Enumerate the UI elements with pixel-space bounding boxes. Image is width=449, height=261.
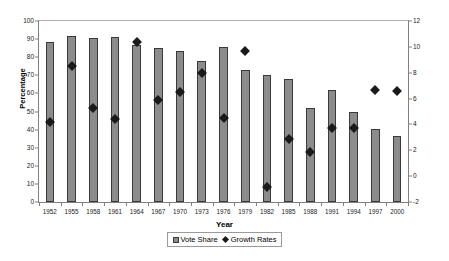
marker-1994 [349, 123, 359, 133]
marker-1964 [132, 37, 142, 47]
legend-label-growth-rates: Growth Rates [231, 235, 277, 244]
x-tickmark-end [408, 203, 409, 206]
x-tick-label-1982: 1982 [260, 208, 274, 215]
x-tickmark-12 [299, 203, 300, 206]
marker-1970 [175, 87, 185, 97]
marker-1973 [197, 68, 207, 78]
y-tickmark-right-2 [409, 150, 412, 151]
y-tick-left-80: 80 [27, 54, 34, 61]
x-tick-label-1973: 1973 [195, 208, 209, 215]
plot-area [38, 20, 409, 203]
x-tick-label-1964: 1964 [130, 208, 144, 215]
x-tickmark-8 [213, 203, 214, 206]
y-tick-left-100: 100 [23, 18, 34, 25]
x-tick-label-1994: 1994 [347, 208, 361, 215]
marker-1955 [67, 61, 77, 71]
x-axis-title: Year [0, 220, 449, 229]
marker-1961 [110, 114, 120, 124]
y-axis-left-title: Percentage [18, 49, 27, 129]
chart-figure: 0102030405060708090100 Percentage -20246… [0, 0, 449, 261]
marker-1967 [153, 95, 163, 105]
y-axis-right: -2024681012 [413, 20, 437, 203]
y-tick-right-8: 8 [413, 69, 417, 76]
bar-swatch-icon [173, 237, 179, 243]
y-tick-left-30: 30 [27, 144, 34, 151]
marker-1976 [219, 113, 229, 123]
x-tick-label-1991: 1991 [325, 208, 339, 215]
y-tickmark-right-6 [409, 98, 412, 99]
legend-item-vote-share: Vote Share [173, 235, 218, 244]
y-tick-left-10: 10 [27, 181, 34, 188]
marker-1982 [262, 182, 272, 192]
y-tick-left-60: 60 [27, 90, 34, 97]
chart-legend: Vote Share Growth Rates [167, 232, 283, 247]
y-tick-left-70: 70 [27, 72, 34, 79]
marker-1952 [45, 117, 55, 127]
y-tick-right--2: -2 [413, 199, 419, 206]
x-axis: 1952195519581961196419671970197319761979… [38, 203, 409, 219]
x-tickmark-3 [104, 203, 105, 206]
y-tick-right-0: 0 [413, 173, 417, 180]
y-tickmark-right--2 [409, 202, 412, 203]
y-tick-right-2: 2 [413, 147, 417, 154]
x-tickmark-11 [278, 203, 279, 206]
x-tick-label-1958: 1958 [86, 208, 100, 215]
marker-1979 [240, 46, 250, 56]
x-tick-label-1976: 1976 [216, 208, 230, 215]
x-tick-label-1988: 1988 [303, 208, 317, 215]
x-tickmark-16 [386, 203, 387, 206]
points-layer [39, 21, 408, 202]
y-tick-right-6: 6 [413, 95, 417, 102]
y-tick-left-50: 50 [27, 108, 34, 115]
x-tick-label-1952: 1952 [43, 208, 57, 215]
x-tick-label-2000: 2000 [390, 208, 404, 215]
marker-1985 [284, 134, 294, 144]
x-tick-label-1961: 1961 [108, 208, 122, 215]
legend-label-vote-share: Vote Share [181, 235, 218, 244]
x-tick-label-1970: 1970 [173, 208, 187, 215]
y-tick-left-90: 90 [27, 36, 34, 43]
x-tick-label-1985: 1985 [282, 208, 296, 215]
x-tickmark-2 [82, 203, 83, 206]
x-tickmark-7 [191, 203, 192, 206]
x-tickmark-15 [365, 203, 366, 206]
x-tickmark-4 [126, 203, 127, 206]
marker-2000 [392, 86, 402, 96]
x-tickmark-5 [148, 203, 149, 206]
x-tickmark-14 [343, 203, 344, 206]
x-tickmark-0 [39, 203, 40, 206]
y-tick-left-0: 0 [30, 199, 34, 206]
marker-1997 [370, 85, 380, 95]
y-tick-right-10: 10 [413, 44, 420, 51]
y-tickmark-right-8 [409, 72, 412, 73]
y-tick-right-12: 12 [413, 18, 420, 25]
x-tickmark-9 [234, 203, 235, 206]
y-tickmark-right-4 [409, 124, 412, 125]
y-tickmark-right-10 [409, 46, 412, 47]
marker-1991 [327, 123, 337, 133]
legend-item-growth-rates: Growth Rates [222, 235, 277, 244]
y-tick-left-20: 20 [27, 163, 34, 170]
x-tick-label-1979: 1979 [238, 208, 252, 215]
x-tick-label-1955: 1955 [65, 208, 79, 215]
x-tick-label-1997: 1997 [368, 208, 382, 215]
x-tickmark-6 [169, 203, 170, 206]
x-tickmark-1 [61, 203, 62, 206]
marker-1958 [88, 103, 98, 113]
x-tickmark-10 [256, 203, 257, 206]
marker-1988 [305, 147, 315, 157]
x-tick-label-1967: 1967 [151, 208, 165, 215]
y-tick-left-40: 40 [27, 126, 34, 133]
y-tickmark-right-12 [409, 21, 412, 22]
diamond-swatch-icon [222, 236, 229, 243]
y-tickmark-right-0 [409, 176, 412, 177]
x-tickmark-13 [321, 203, 322, 206]
y-tick-right-4: 4 [413, 121, 417, 128]
